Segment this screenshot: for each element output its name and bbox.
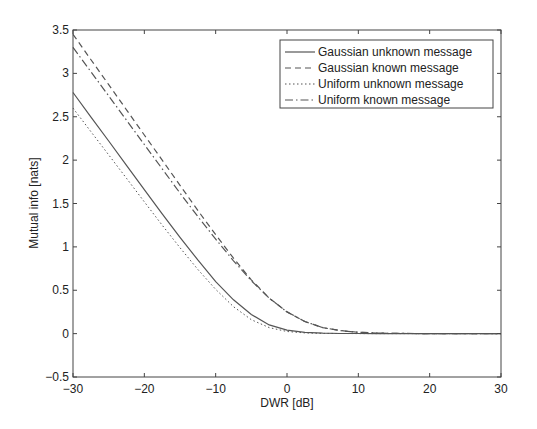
x-tick-label: 0 [284, 382, 291, 396]
x-tick-label: 20 [423, 382, 437, 396]
mutual-info-chart: −30−20−100102030 −0.500.511.522.533.5 DW… [0, 0, 537, 429]
y-tick-label: −0.5 [45, 370, 69, 384]
y-tick-label: 0 [62, 327, 69, 341]
y-tick-label: 3.5 [52, 23, 69, 37]
x-axis-label: DWR [dB] [260, 396, 313, 410]
y-tick-label: 1 [62, 240, 69, 254]
legend: Gaussian unknown messageGaussian known m… [280, 40, 493, 108]
series-line-uniform-unknown-message [73, 108, 501, 334]
y-tick-label: 1.5 [52, 197, 69, 211]
legend-label: Gaussian known message [318, 61, 459, 75]
x-tick-label: −10 [205, 382, 226, 396]
x-tick-label: 30 [494, 382, 508, 396]
x-tick-label: −30 [63, 382, 84, 396]
y-tick-label: 2 [62, 153, 69, 167]
legend-label: Gaussian unknown message [318, 45, 472, 59]
y-tick-label: 2.5 [52, 110, 69, 124]
y-axis-label: Mutual info [nats] [27, 157, 41, 248]
legend-label: Uniform unknown message [318, 77, 464, 91]
y-tick-label: 0.5 [52, 283, 69, 297]
legend-label: Uniform known message [318, 93, 450, 107]
x-tick-label: −20 [134, 382, 155, 396]
series-line-gaussian-unknown-message [73, 93, 501, 334]
y-tick-label: 3 [62, 66, 69, 80]
x-tick-label: 10 [352, 382, 366, 396]
